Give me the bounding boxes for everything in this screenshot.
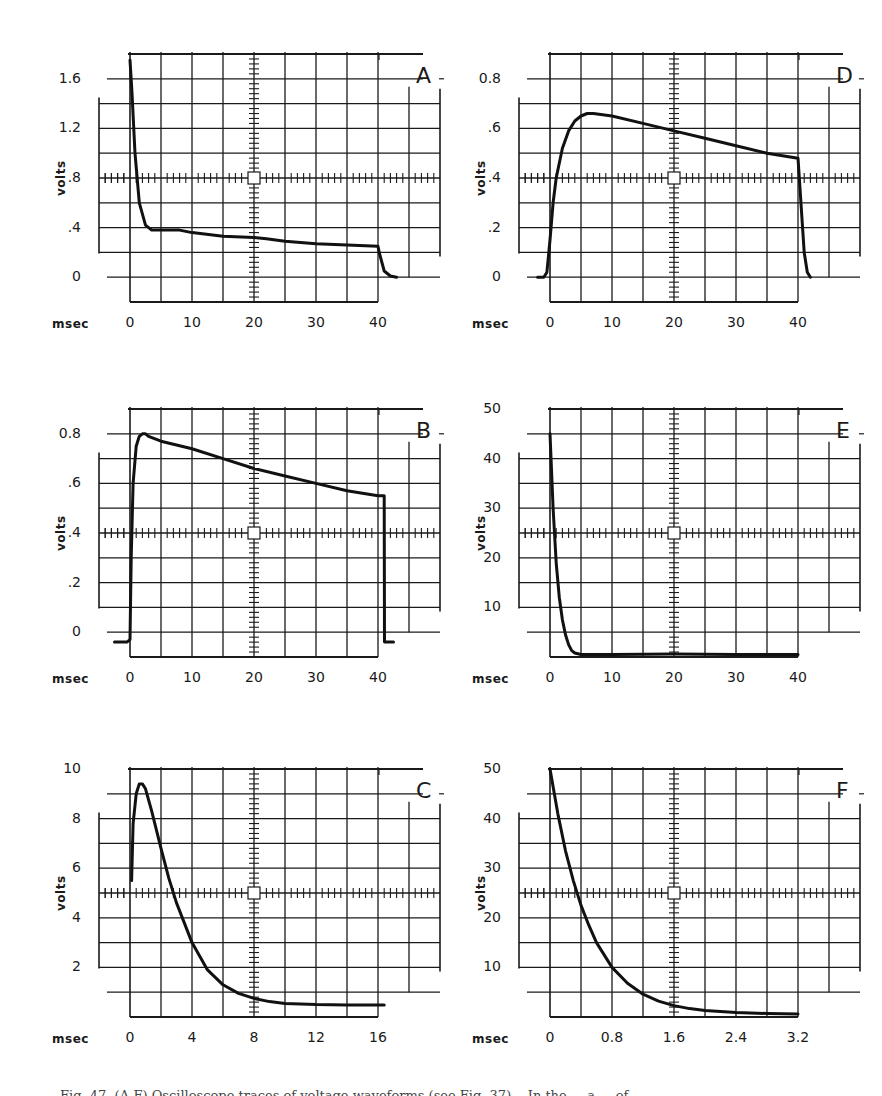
panel-letter: F bbox=[836, 778, 849, 803]
x-tick-label: 0.8 bbox=[592, 1029, 632, 1045]
x-axis-unit-label: msec bbox=[52, 672, 89, 686]
y-tick-label: 10 bbox=[461, 958, 501, 974]
y-tick-label: 10 bbox=[41, 760, 81, 776]
x-tick-label: 0 bbox=[530, 1029, 570, 1045]
y-axis-unit-label: volts bbox=[474, 160, 488, 196]
x-tick-label: 40 bbox=[778, 669, 818, 685]
x-tick-label: 8 bbox=[234, 1029, 274, 1045]
y-axis-unit-label: volts bbox=[474, 515, 488, 551]
x-tick-label: 2.4 bbox=[716, 1029, 756, 1045]
y-axis-unit-label: volts bbox=[54, 875, 68, 911]
x-tick-label: 30 bbox=[716, 669, 756, 685]
y-tick-label: 0 bbox=[461, 268, 501, 284]
x-tick-label: 4 bbox=[172, 1029, 212, 1045]
y-tick-label: 50 bbox=[461, 400, 501, 416]
y-tick-label: 6 bbox=[41, 859, 81, 875]
x-tick-label: 10 bbox=[592, 669, 632, 685]
x-tick-label: 0 bbox=[110, 669, 150, 685]
panel-letter: D bbox=[836, 63, 853, 88]
y-tick-label: 10 bbox=[461, 598, 501, 614]
y-tick-label: .2 bbox=[461, 219, 501, 235]
y-tick-label: 40 bbox=[461, 450, 501, 466]
panel-a: 0.4.81.21.6010203040msecvoltsA bbox=[0, 0, 441, 360]
y-axis-unit-label: volts bbox=[474, 875, 488, 911]
x-tick-label: 30 bbox=[296, 669, 336, 685]
x-tick-label: 20 bbox=[234, 314, 274, 330]
x-tick-label: 20 bbox=[234, 669, 274, 685]
y-tick-label: 20 bbox=[461, 909, 501, 925]
x-tick-label: 1.6 bbox=[654, 1029, 694, 1045]
x-tick-label: 0 bbox=[530, 669, 570, 685]
x-tick-label: 40 bbox=[358, 669, 398, 685]
x-tick-label: 10 bbox=[592, 314, 632, 330]
x-tick-label: 0 bbox=[110, 1029, 150, 1045]
y-tick-label: 0 bbox=[41, 268, 81, 284]
y-tick-label: 30 bbox=[461, 859, 501, 875]
y-tick-label: .6 bbox=[461, 119, 501, 135]
y-tick-label: 0 bbox=[41, 623, 81, 639]
y-axis-unit-label: volts bbox=[54, 160, 68, 196]
y-tick-label: .4 bbox=[41, 219, 81, 235]
x-tick-label: 3.2 bbox=[778, 1029, 818, 1045]
y-tick-label: 30 bbox=[461, 499, 501, 515]
y-tick-label: 2 bbox=[41, 958, 81, 974]
y-axis-unit-label: volts bbox=[54, 515, 68, 551]
x-tick-label: 16 bbox=[358, 1029, 398, 1045]
x-tick-label: 30 bbox=[296, 314, 336, 330]
x-tick-label: 0 bbox=[110, 314, 150, 330]
y-tick-label: 0.8 bbox=[41, 425, 81, 441]
panel-b: 0.2.4.60.8010203040msecvoltsB bbox=[0, 355, 441, 715]
x-tick-label: 0 bbox=[530, 314, 570, 330]
y-tick-label: 1.2 bbox=[41, 119, 81, 135]
y-tick-label: 20 bbox=[461, 549, 501, 565]
y-tick-label: 8 bbox=[41, 810, 81, 826]
x-tick-label: 20 bbox=[654, 669, 694, 685]
x-tick-label: 10 bbox=[172, 314, 212, 330]
x-axis-unit-label: msec bbox=[52, 317, 89, 331]
x-axis-unit-label: msec bbox=[472, 1032, 509, 1046]
panel-f: 102030405000.81.62.43.2msecvoltsF bbox=[420, 715, 861, 1075]
x-axis-unit-label: msec bbox=[472, 317, 509, 331]
y-tick-label: 4 bbox=[41, 909, 81, 925]
y-tick-label: .2 bbox=[41, 574, 81, 590]
panel-letter: E bbox=[836, 418, 850, 443]
figure-caption: Fig. 47. (A-F) Oscilloscope traces of vo… bbox=[60, 1084, 860, 1096]
x-tick-label: 40 bbox=[778, 314, 818, 330]
panel-e: 1020304050010203040msecvoltsE bbox=[420, 355, 861, 715]
x-tick-label: 12 bbox=[296, 1029, 336, 1045]
y-tick-label: 1.6 bbox=[41, 70, 81, 86]
x-tick-label: 20 bbox=[654, 314, 694, 330]
panel-d: 0.2.4.60.8010203040msecvoltsD bbox=[420, 0, 861, 360]
y-tick-label: 50 bbox=[461, 760, 501, 776]
trace-line bbox=[130, 60, 397, 277]
y-tick-label: 40 bbox=[461, 810, 501, 826]
x-axis-unit-label: msec bbox=[472, 672, 509, 686]
y-tick-label: 0.8 bbox=[461, 70, 501, 86]
x-tick-label: 40 bbox=[358, 314, 398, 330]
panel-c: 2468100481216msecvoltsC bbox=[0, 715, 441, 1075]
x-tick-label: 30 bbox=[716, 314, 756, 330]
x-tick-label: 10 bbox=[172, 669, 212, 685]
x-axis-unit-label: msec bbox=[52, 1032, 89, 1046]
y-tick-label: .6 bbox=[41, 474, 81, 490]
